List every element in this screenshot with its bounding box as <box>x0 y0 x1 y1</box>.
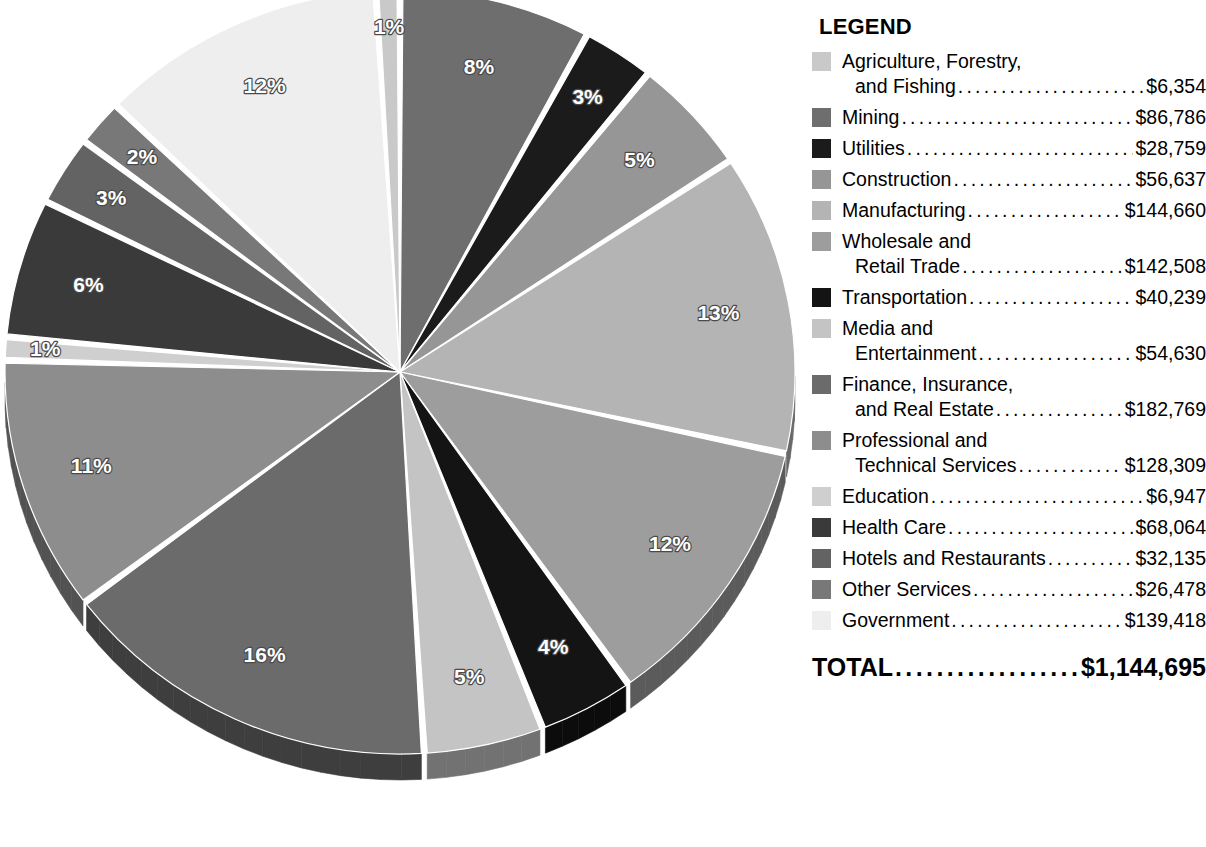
legend-item-body: Hotels and Restaurants..................… <box>842 546 1206 571</box>
dot-leader: ........................................… <box>931 484 1144 509</box>
legend-item-label: Entertainment <box>855 341 976 366</box>
pie-slice-depth <box>361 752 381 779</box>
legend-item-value: $6,947 <box>1146 484 1206 509</box>
legend-color-swatch <box>812 52 831 71</box>
legend-item[interactable]: Media andEntertainment..................… <box>812 316 1206 366</box>
legend-item-label: Agriculture, Forestry, <box>842 49 1206 74</box>
legend-color-swatch <box>812 375 831 394</box>
legend-item-value: $142,508 <box>1125 254 1206 279</box>
legend-color-swatch <box>812 139 831 158</box>
legend-item[interactable]: Agriculture, Forestry,and Fishing.......… <box>812 49 1206 99</box>
legend-item[interactable]: Wholesale andRetail Trade...............… <box>812 229 1206 279</box>
pie-slice-depth <box>321 746 341 775</box>
legend-item-label: Professional and <box>842 428 1206 453</box>
dot-leader: ........................................… <box>968 198 1122 223</box>
legend-item-body: Professional andTechnical Services......… <box>842 428 1206 478</box>
legend-item[interactable]: Professional andTechnical Services......… <box>812 428 1206 478</box>
legend-value-line: Mining..................................… <box>842 105 1206 130</box>
dot-leader: ........................................… <box>907 136 1133 161</box>
legend-value-line: Technical Services......................… <box>842 453 1206 478</box>
legend-total-row: TOTAL ..................................… <box>812 653 1206 682</box>
pie-slice-percent-label: 8% <box>464 55 495 78</box>
legend-item[interactable]: Utilities...............................… <box>812 136 1206 161</box>
pie-slice-depth <box>401 753 421 780</box>
legend-item-label: Transportation <box>842 285 967 310</box>
legend-item-label: Hotels and Restaurants <box>842 546 1046 571</box>
legend-value-line: Retail Trade............................… <box>842 254 1206 279</box>
dot-leader: ........................................… <box>951 608 1121 633</box>
pie-slice-depth <box>427 751 446 779</box>
legend-color-swatch <box>812 319 831 338</box>
legend-item[interactable]: Other Services..........................… <box>812 577 1206 602</box>
pie-slice-percent-label: 4% <box>538 635 569 658</box>
legend-item-body: Wholesale andRetail Trade...............… <box>842 229 1206 279</box>
legend-color-swatch <box>812 487 831 506</box>
legend-value-line: Construction............................… <box>842 167 1206 192</box>
legend-color-swatch <box>812 108 831 127</box>
pie-slice-percent-label: 2% <box>127 145 158 168</box>
legend-item[interactable]: Transportation..........................… <box>812 285 1206 310</box>
legend-color-swatch <box>812 170 831 189</box>
legend-item-value: $54,630 <box>1136 341 1206 366</box>
legend-item-value: $182,769 <box>1125 397 1206 422</box>
pie-slice-percent-label: 12% <box>244 74 286 97</box>
legend-item[interactable]: Mining..................................… <box>812 105 1206 130</box>
legend-item-label: Construction <box>842 167 951 192</box>
pie-slice-depth <box>485 741 504 771</box>
dot-leader: ........................................… <box>953 167 1132 192</box>
legend-item-body: Finance, Insurance,and Real Estate......… <box>842 372 1206 422</box>
dot-leader: ........................................… <box>996 397 1122 422</box>
pie-slice-percent-label: 12% <box>649 532 691 555</box>
legend-value-line: and Fishing.............................… <box>842 74 1206 99</box>
legend-item-body: Health Care.............................… <box>842 515 1206 540</box>
legend-item-body: Government..............................… <box>842 608 1206 633</box>
legend-item-label: Education <box>842 484 929 509</box>
dot-leader: ........................................… <box>948 515 1132 540</box>
legend-item-body: Construction............................… <box>842 167 1206 192</box>
legend-item[interactable]: Finance, Insurance,and Real Estate......… <box>812 372 1206 422</box>
legend-item[interactable]: Education...............................… <box>812 484 1206 509</box>
legend-value-line: Other Services..........................… <box>842 577 1206 602</box>
legend-value-line: Manufacturing...........................… <box>842 198 1206 223</box>
pie-chart-area: 8%3%5%13%12%4%5%16%11%1%6%3%2%12%1% <box>0 0 806 847</box>
legend-item-value: $56,637 <box>1136 167 1206 192</box>
legend-item-label: Manufacturing <box>842 198 966 223</box>
legend-item-value: $32,135 <box>1136 546 1206 571</box>
pie-slice-depth <box>466 745 485 775</box>
legend-item-value: $139,418 <box>1125 608 1206 633</box>
legend-value-line: Transportation..........................… <box>842 285 1206 310</box>
legend-item-body: Mining..................................… <box>842 105 1206 130</box>
pie-slice-percent-label: 5% <box>624 148 655 171</box>
legend-value-line: and Real Estate.........................… <box>842 397 1206 422</box>
legend-item[interactable]: Health Care.............................… <box>812 515 1206 540</box>
legend-item-body: Manufacturing...........................… <box>842 198 1206 223</box>
legend-value-line: Utilities...............................… <box>842 136 1206 161</box>
legend-item-label: Government <box>842 608 949 633</box>
pie-chart-svg: 8%3%5%13%12%4%5%16%11%1%6%3%2%12%1% <box>0 0 806 847</box>
legend-item-body: Agriculture, Forestry,and Fishing.......… <box>842 49 1206 99</box>
legend-item-value: $86,786 <box>1136 105 1206 130</box>
pie-slice-percent-label: 5% <box>454 665 485 688</box>
pie-slice-percent-label: 16% <box>244 643 286 666</box>
legend-value-line: Health Care.............................… <box>842 515 1206 540</box>
total-label: TOTAL <box>812 653 893 682</box>
legend-item[interactable]: Government..............................… <box>812 608 1206 633</box>
legend-value-line: Entertainment...........................… <box>842 341 1206 366</box>
legend-item[interactable]: Hotels and Restaurants..................… <box>812 546 1206 571</box>
pie-slice-percent-label: 3% <box>96 186 127 209</box>
legend-item[interactable]: Construction............................… <box>812 167 1206 192</box>
legend-item-label: and Real Estate <box>855 397 994 422</box>
legend-item[interactable]: Manufacturing...........................… <box>812 198 1206 223</box>
legend-item-value: $68,064 <box>1136 515 1206 540</box>
pie-slice-depth <box>381 754 401 780</box>
dot-leader: ........................................… <box>1048 546 1133 571</box>
total-value: $1,144,695 <box>1081 653 1206 682</box>
pie-slices-layer <box>5 0 795 754</box>
legend-color-swatch <box>812 518 831 537</box>
pie-slice-percent-label: 3% <box>572 85 603 108</box>
dot-leader: ........................................… <box>978 341 1132 366</box>
legend-color-swatch <box>812 232 831 251</box>
legend-item-label: Mining <box>842 105 899 130</box>
legend-item-label: Other Services <box>842 577 971 602</box>
legend-item-value: $40,239 <box>1136 285 1206 310</box>
